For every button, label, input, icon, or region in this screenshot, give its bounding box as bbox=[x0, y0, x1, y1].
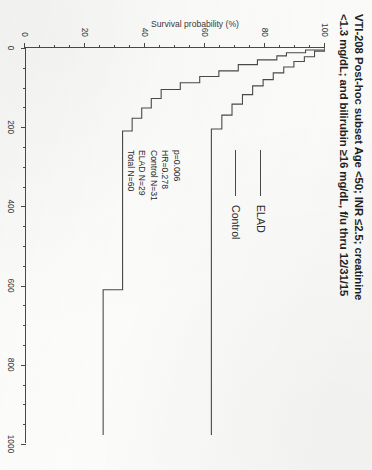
y-axis-tick bbox=[39, 45, 40, 48]
legend-line-elad bbox=[261, 150, 262, 196]
y-axis-tick bbox=[309, 45, 310, 48]
stat-control-n: Control N=31 bbox=[147, 150, 159, 201]
x-axis-tick-label: 800 bbox=[6, 358, 16, 372]
y-axis-tick bbox=[189, 45, 190, 48]
stat-elad-n: ELAD N=29 bbox=[136, 150, 148, 201]
x-axis-tick bbox=[23, 147, 26, 148]
y-axis-tick-label: 60 bbox=[200, 28, 210, 37]
y-axis-tick bbox=[69, 45, 70, 48]
chart-title: VTI-208 Post-hoc subset Age <50; INR ≤2.… bbox=[336, 14, 366, 456]
survival-curve-elad bbox=[211, 48, 325, 435]
y-axis-tick-label: 0 bbox=[20, 32, 30, 37]
legend-item-control: Control bbox=[230, 150, 242, 240]
kaplan-meier-chart: VTI-208 Post-hoc subset Age <50; INR ≤2.… bbox=[0, 0, 372, 470]
survival-curve-control bbox=[103, 48, 325, 435]
x-axis-tick bbox=[23, 266, 26, 267]
x-axis-tick bbox=[23, 226, 26, 227]
statistics-annotation-block: p=0.006 HR=0.278 Control N=31 ELAD N=29 … bbox=[124, 150, 182, 201]
x-axis-tick bbox=[21, 48, 26, 49]
rotated-figure-container: VTI-208 Post-hoc subset Age <50; INR ≤2.… bbox=[0, 0, 372, 470]
stat-total-n: Total N=60 bbox=[124, 150, 136, 201]
legend-line-control bbox=[236, 150, 237, 196]
y-axis-tick bbox=[219, 45, 220, 48]
y-axis-label: Survival probability (%) bbox=[85, 19, 305, 29]
y-axis-tick-label: 100 bbox=[320, 23, 330, 37]
x-axis-tick bbox=[23, 345, 26, 346]
x-axis-tick-label: 400 bbox=[6, 199, 16, 213]
x-axis-tick bbox=[23, 246, 26, 247]
survival-curves bbox=[26, 48, 325, 443]
x-axis-tick bbox=[23, 167, 26, 168]
chart-legend: ELAD Control bbox=[217, 150, 267, 240]
x-axis-tick bbox=[23, 107, 26, 108]
y-axis-tick-label: 20 bbox=[80, 28, 90, 37]
x-axis-tick-label: 1000 bbox=[6, 435, 16, 454]
y-axis-tick bbox=[204, 43, 205, 48]
x-axis-tick bbox=[23, 424, 26, 425]
x-axis-tick bbox=[21, 286, 26, 287]
y-axis-tick bbox=[129, 45, 130, 48]
y-axis-tick bbox=[54, 45, 55, 48]
y-axis-tick bbox=[174, 45, 175, 48]
x-axis-tick bbox=[23, 305, 26, 306]
x-axis-tick bbox=[23, 385, 26, 386]
stat-hazard-ratio: HR=0.278 bbox=[159, 150, 171, 201]
y-axis-tick bbox=[84, 43, 85, 48]
y-axis-tick bbox=[24, 43, 25, 48]
x-axis-tick bbox=[21, 127, 26, 128]
y-axis-tick bbox=[324, 43, 325, 48]
x-axis-tick bbox=[21, 365, 26, 366]
y-axis-tick bbox=[264, 43, 265, 48]
x-axis-tick bbox=[21, 444, 26, 445]
y-axis-tick bbox=[249, 45, 250, 48]
y-axis-tick bbox=[294, 45, 295, 48]
y-axis-tick bbox=[99, 45, 100, 48]
legend-label-control: Control bbox=[230, 205, 242, 240]
y-axis-tick bbox=[234, 45, 235, 48]
y-axis-tick-label: 80 bbox=[260, 28, 270, 37]
chart-title-line-1: VTI-208 Post-hoc subset Age <50; INR ≤2.… bbox=[353, 14, 365, 300]
y-axis-tick bbox=[159, 45, 160, 48]
x-axis-tick bbox=[23, 88, 26, 89]
y-axis-tick-label: 40 bbox=[140, 28, 150, 37]
chart-title-line-2: <1.3 mg/dL; and bilirubin ≥16 mg/dL, f/u… bbox=[336, 14, 351, 456]
stat-p-value: p=0.006 bbox=[170, 150, 182, 201]
legend-item-elad: ELAD bbox=[255, 150, 267, 240]
x-axis-tick bbox=[23, 325, 26, 326]
x-axis-tick-label: 600 bbox=[6, 279, 16, 293]
x-axis-tick bbox=[21, 206, 26, 207]
x-axis-tick bbox=[23, 404, 26, 405]
y-axis-tick bbox=[144, 43, 145, 48]
y-axis-tick bbox=[279, 45, 280, 48]
x-axis-tick-label: 200 bbox=[6, 120, 16, 134]
x-axis-tick bbox=[23, 187, 26, 188]
plot-area: 02004006008001000020406080100 bbox=[25, 47, 325, 443]
x-axis-tick-label: 0 bbox=[6, 46, 16, 51]
x-axis-tick bbox=[23, 68, 26, 69]
legend-label-elad: ELAD bbox=[255, 205, 267, 233]
y-axis-tick bbox=[114, 45, 115, 48]
